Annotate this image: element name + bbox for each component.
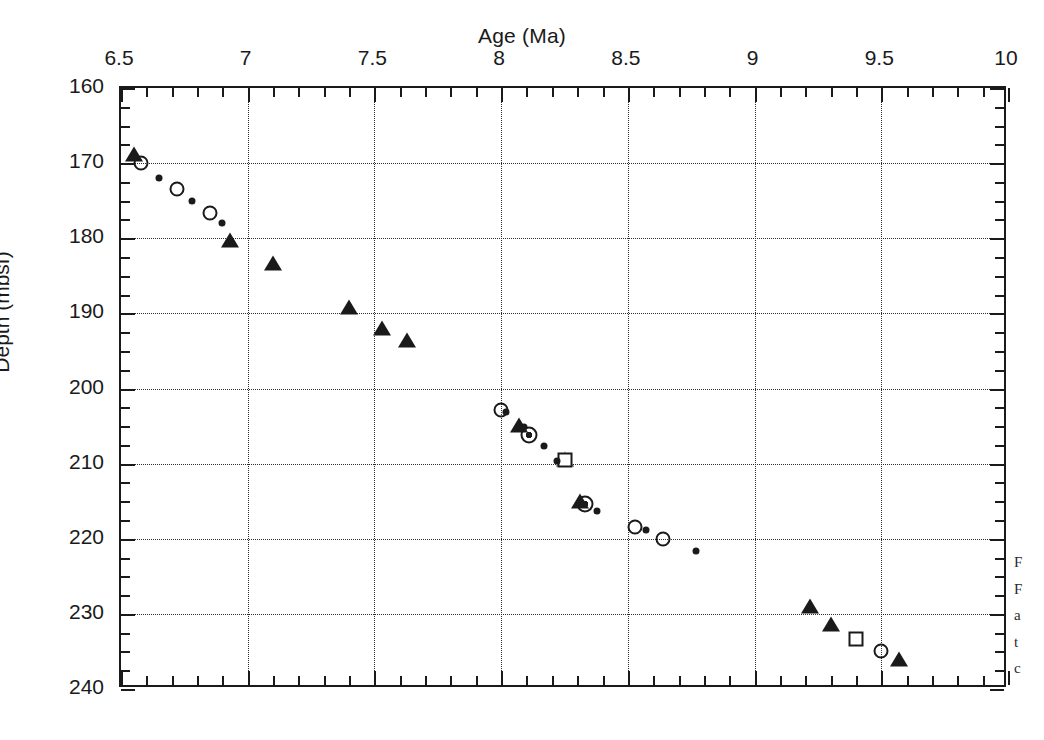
y-tick-right — [995, 670, 1004, 672]
x-tick-top — [501, 88, 503, 102]
y-tick-right — [995, 295, 1004, 297]
data-point-triangle-filled — [801, 598, 819, 613]
y-tick-left — [121, 332, 130, 334]
x-tick-bottom — [729, 676, 731, 685]
data-point-circle-open — [202, 205, 217, 220]
gridline-vertical — [248, 88, 249, 685]
y-tick-right — [995, 520, 1004, 522]
x-tick-bottom — [374, 671, 376, 685]
x-tick-top — [805, 88, 807, 97]
x-tick-top — [856, 88, 858, 97]
data-point-dot-small — [541, 442, 548, 449]
x-tick-top — [957, 88, 959, 97]
y-tick-right — [995, 445, 1004, 447]
y-tick-left — [121, 464, 135, 466]
gridline-horizontal — [121, 163, 1004, 164]
data-point-circle-open — [656, 531, 671, 546]
y-tick-right — [995, 501, 1004, 503]
data-point-triangle-filled — [264, 256, 282, 271]
x-tick-top — [881, 88, 883, 102]
x-tick-bottom — [298, 676, 300, 685]
gridline-horizontal — [121, 539, 1004, 540]
data-point-dot-small — [156, 175, 163, 182]
data-point-triangle-filled — [221, 232, 239, 247]
x-tick-top — [324, 88, 326, 97]
y-tick-right — [990, 389, 1004, 391]
x-tick-top — [374, 88, 376, 102]
chart-figure: Age (Ma) Depth (mbsf) 6.577.588.599.510 … — [0, 0, 1044, 740]
x-tick-bottom — [628, 671, 630, 685]
y-tick-left — [121, 482, 130, 484]
y-tick-right — [995, 219, 1004, 221]
gridline-horizontal — [121, 313, 1004, 314]
y-tick-right — [995, 351, 1004, 353]
x-tick-bottom — [273, 676, 275, 685]
data-point-dot-small — [520, 423, 527, 430]
x-tick-bottom — [881, 671, 883, 685]
y-tick-left — [121, 370, 130, 372]
y-tick-right — [995, 426, 1004, 428]
x-tick-top — [932, 88, 934, 97]
x-tick-label: 8.5 — [611, 46, 640, 70]
x-tick-top — [222, 88, 224, 97]
y-tick-left — [121, 219, 130, 221]
y-tick-label: 180 — [0, 224, 104, 248]
data-point-dot-small — [219, 220, 226, 227]
x-tick-bottom — [603, 676, 605, 685]
y-tick-right — [995, 576, 1004, 578]
caption-line-2: F — [1014, 576, 1044, 603]
y-tick-right — [995, 407, 1004, 409]
x-tick-bottom — [983, 676, 985, 685]
y-tick-right — [995, 595, 1004, 597]
data-point-dot-small — [503, 408, 510, 415]
y-tick-left — [121, 257, 130, 259]
y-tick-left — [121, 88, 135, 90]
y-tick-right — [995, 107, 1004, 109]
x-tick-bottom — [526, 676, 528, 685]
y-tick-left — [121, 445, 130, 447]
x-tick-top — [983, 88, 985, 97]
y-tick-left — [121, 201, 130, 203]
x-tick-bottom — [856, 676, 858, 685]
x-tick-top — [679, 88, 681, 97]
x-tick-top — [907, 88, 909, 97]
x-axis-title: Age (Ma) — [0, 24, 1044, 48]
y-tick-left — [121, 407, 130, 409]
data-point-square-open — [848, 632, 863, 647]
x-tick-bottom — [349, 676, 351, 685]
data-point-triangle-filled — [890, 651, 908, 666]
x-tick-bottom — [679, 676, 681, 685]
y-tick-right — [990, 88, 1004, 90]
y-tick-right — [995, 144, 1004, 146]
clipped-caption-fragment: F F a t c — [1014, 549, 1044, 679]
x-tick-label: 10 — [994, 46, 1017, 70]
y-tick-left — [121, 351, 130, 353]
x-tick-top — [450, 88, 452, 97]
y-tick-right — [995, 257, 1004, 259]
y-tick-right — [995, 126, 1004, 128]
y-tick-label: 240 — [0, 675, 104, 699]
data-point-dot-small — [693, 547, 700, 554]
x-tick-top — [628, 88, 630, 102]
y-tick-left — [121, 313, 135, 315]
data-point-circle-open — [134, 156, 149, 171]
y-tick-right — [995, 332, 1004, 334]
y-tick-left — [121, 576, 130, 578]
gridline-horizontal — [121, 238, 1004, 239]
y-tick-left — [121, 558, 130, 560]
x-tick-top — [526, 88, 528, 97]
x-tick-label: 8 — [493, 46, 505, 70]
x-tick-bottom — [248, 671, 250, 685]
x-tick-bottom — [653, 676, 655, 685]
gridline-horizontal — [121, 614, 1004, 615]
caption-line-1: F — [1014, 549, 1044, 576]
x-tick-top — [121, 88, 123, 102]
gridline-vertical — [755, 88, 756, 685]
caption-line-4: t — [1014, 629, 1044, 656]
x-tick-top — [603, 88, 605, 97]
x-tick-bottom — [121, 671, 123, 685]
y-tick-left — [121, 595, 130, 597]
y-tick-label: 190 — [0, 299, 104, 323]
x-tick-top — [298, 88, 300, 97]
x-tick-bottom — [425, 676, 427, 685]
